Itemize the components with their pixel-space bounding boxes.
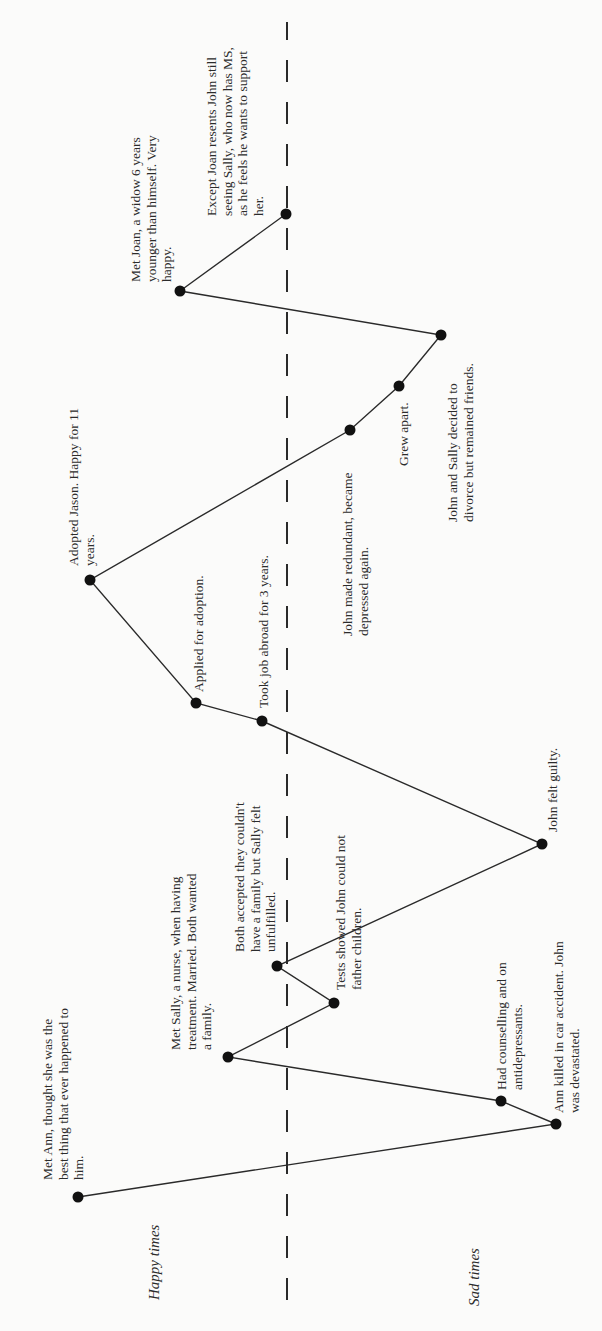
point-met-ann xyxy=(73,1192,84,1203)
label-joan-resents: Except Joan resents John still seeing Sa… xyxy=(204,47,266,216)
event-points xyxy=(73,209,562,1203)
label-grew-apart: Grew apart. xyxy=(396,402,412,466)
label-decided-divorce: John and Sally decided to divorce but re… xyxy=(445,363,476,522)
point-ann-killed xyxy=(551,1119,562,1130)
point-decided-divorce xyxy=(436,330,447,341)
point-had-counselling xyxy=(496,1096,507,1107)
point-met-sally xyxy=(223,1052,234,1063)
point-met-joan xyxy=(175,286,186,297)
point-tests-showed xyxy=(329,998,340,1009)
point-applied-adoption xyxy=(191,698,202,709)
point-joan-resents xyxy=(281,209,292,220)
label-adopted-jason: Adopted Jason. Happy for 11 years. xyxy=(66,408,97,566)
label-john-felt-guilty: John felt guilty. xyxy=(545,748,561,832)
label-had-counselling: Had counselling and on antidepressants. xyxy=(494,962,525,1090)
point-grew-apart xyxy=(394,381,405,392)
label-met-sally: Met Sally, a nurse, when having treatmen… xyxy=(168,873,215,1050)
label-tests-showed: Tests showed John could not father child… xyxy=(333,835,364,990)
label-took-job-abroad: Took job abroad for 3 years. xyxy=(256,555,272,708)
label-applied-adoption: Applied for adoption. xyxy=(191,575,207,692)
label-both-accepted: Both accepted they couldn't have a famil… xyxy=(232,802,279,952)
sad-times-label: Sad times xyxy=(466,1248,483,1306)
label-met-joan: Met Joan, a widow 6 years younger than h… xyxy=(128,135,175,282)
point-john-felt-guilty xyxy=(537,839,548,850)
life-events-chart xyxy=(0,0,602,1331)
point-adopted-jason xyxy=(85,575,96,586)
point-made-redundant xyxy=(345,425,356,436)
point-took-job-abroad xyxy=(257,716,268,727)
label-met-ann: Met Ann, thought she was the best thing … xyxy=(40,1008,87,1180)
point-both-accepted xyxy=(272,961,283,972)
label-made-redundant: John made redundant, became depressed ag… xyxy=(340,473,371,636)
label-ann-killed: Ann killed in car accident. John was dev… xyxy=(551,941,582,1113)
life-line xyxy=(78,214,556,1197)
happy-times-label: Happy times xyxy=(146,1225,163,1300)
